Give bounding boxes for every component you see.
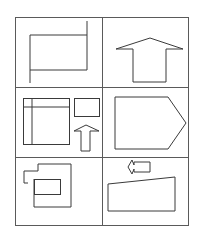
cell-6 [108,160,175,211]
figure-canvas [0,0,201,234]
cell-3 [23,98,100,151]
cell-1 [30,21,87,83]
polygon-shape [128,160,150,174]
cell-4 [115,97,186,149]
line-shape [34,164,71,207]
polygon-shape [115,97,186,149]
cell-5 [24,164,71,207]
rectangle-shape [75,99,100,117]
line-shape [24,164,38,183]
polygon-shape [108,177,175,211]
polygon-shape [74,125,99,151]
cell-shapes [23,21,186,211]
polygon-shape [116,38,183,82]
rectangle-shape [35,180,61,195]
rectangle-shape [24,99,70,145]
cell-2 [116,38,183,82]
